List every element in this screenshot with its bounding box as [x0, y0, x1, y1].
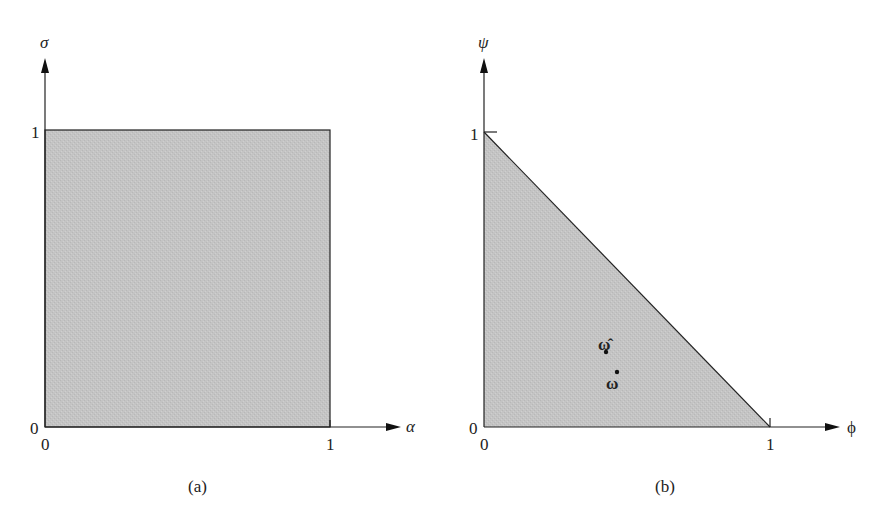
unit-square-region [45, 130, 330, 427]
x-origin-label: 0 [480, 435, 489, 454]
phi-axis-label: ϕ [847, 418, 856, 437]
y-tick-label-1: 1 [31, 123, 40, 142]
y-tick-label-1: 1 [470, 125, 479, 144]
psi-axis-label: ψ [478, 33, 489, 52]
caption-a: (a) [188, 477, 207, 496]
alpha-axis-label: α [406, 417, 416, 436]
sigma-axis-label: σ [40, 33, 49, 52]
panel-b: ω̂ ω ψ ϕ 1 0 0 1 (b) [469, 33, 856, 496]
omega-hat-point [604, 350, 608, 354]
x-origin-label: 0 [41, 435, 50, 454]
y-origin-label: 0 [30, 419, 39, 438]
omega-label: ω [606, 374, 618, 393]
panel-a: σ α 1 0 0 1 (a) [30, 33, 416, 496]
x-tick-label-1: 1 [326, 435, 335, 454]
phi-axis-arrowhead [825, 423, 840, 431]
figure: σ α 1 0 0 1 (a) ω̂ ω ψ ϕ 1 0 0 1 (b) [0, 0, 884, 521]
alpha-axis-arrowhead [386, 423, 401, 431]
sigma-axis-arrowhead [41, 58, 49, 73]
x-tick-label-1: 1 [766, 435, 775, 454]
y-origin-label: 0 [469, 419, 478, 438]
caption-b: (b) [655, 477, 675, 496]
psi-axis-arrowhead [480, 58, 488, 73]
